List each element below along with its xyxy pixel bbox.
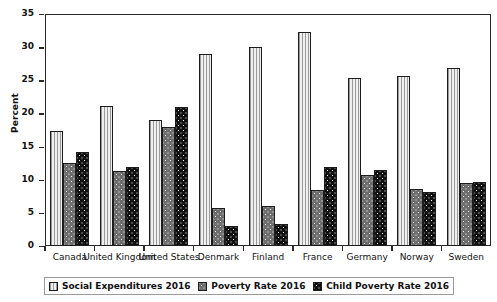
y-axis-tick-label: 5 bbox=[28, 207, 34, 218]
bar-group bbox=[194, 14, 244, 246]
bar bbox=[324, 167, 337, 246]
y-axis-tick-label: 35 bbox=[21, 8, 34, 19]
bar bbox=[175, 107, 188, 246]
y-axis-tick-mark bbox=[39, 80, 44, 81]
x-axis-tick-mark bbox=[391, 246, 392, 251]
bar-group bbox=[45, 14, 95, 246]
y-axis-tick-label: 25 bbox=[21, 74, 34, 85]
bar bbox=[249, 47, 262, 246]
y-axis-tick-label: 10 bbox=[21, 174, 34, 185]
bar bbox=[311, 190, 324, 246]
x-axis-tick-mark bbox=[243, 246, 244, 251]
y-axis-tick-mark bbox=[39, 147, 44, 148]
bar bbox=[410, 189, 423, 246]
bar bbox=[275, 224, 288, 246]
bar bbox=[100, 106, 113, 246]
y-axis-tick-mark bbox=[39, 180, 44, 181]
legend-item-poverty-rate: Poverty Rate 2016 bbox=[198, 281, 305, 291]
bar bbox=[212, 208, 225, 246]
x-axis-tick-mark bbox=[292, 246, 293, 251]
bar-group bbox=[342, 14, 392, 246]
x-axis-category: Sweden bbox=[442, 246, 492, 278]
x-axis-tick-mark bbox=[342, 246, 343, 251]
bar bbox=[149, 120, 162, 246]
bar bbox=[262, 206, 275, 246]
bar-group bbox=[243, 14, 293, 246]
x-axis-tick-mark bbox=[441, 246, 442, 251]
bar bbox=[162, 127, 175, 246]
bar bbox=[298, 32, 311, 246]
legend-swatch-icon bbox=[198, 282, 207, 291]
y-axis-tick-mark bbox=[39, 246, 44, 247]
bar bbox=[447, 68, 460, 246]
legend-item-child-poverty-rate: Child Poverty Rate 2016 bbox=[313, 281, 449, 291]
bar bbox=[225, 226, 238, 246]
bar bbox=[397, 76, 410, 246]
bar bbox=[63, 163, 76, 246]
y-axis-tick-label: 30 bbox=[21, 41, 34, 52]
y-axis-tick-label: 15 bbox=[21, 141, 34, 152]
bar bbox=[361, 175, 374, 246]
y-axis-tick-mark bbox=[39, 113, 44, 114]
x-axis-tick-mark bbox=[44, 246, 45, 251]
y-axis-tick-mark bbox=[39, 213, 44, 214]
x-axis-tick-label: Sweden bbox=[428, 252, 497, 264]
y-axis-title: Percent bbox=[10, 78, 20, 148]
bar-group bbox=[442, 14, 492, 246]
bar-group bbox=[293, 14, 343, 246]
bar bbox=[50, 131, 63, 246]
legend-swatch-icon bbox=[313, 282, 322, 291]
x-axis-tick-mark bbox=[193, 246, 194, 251]
bar-group bbox=[95, 14, 145, 246]
bar bbox=[460, 183, 473, 246]
bar-group bbox=[392, 14, 442, 246]
legend-swatch-icon bbox=[49, 282, 58, 291]
y-axis-tick-label: 20 bbox=[21, 107, 34, 118]
bar bbox=[423, 192, 436, 246]
bar bbox=[113, 171, 126, 246]
x-axis-labels: CanadaUnited KingdomUnited StatesDenmark… bbox=[45, 246, 491, 278]
bar bbox=[473, 182, 486, 246]
y-axis-tick-mark bbox=[39, 47, 44, 48]
legend-item-social-expenditures: Social Expenditures 2016 bbox=[49, 281, 191, 291]
bar-chart: Percent 05101520253035 CanadaUnited King… bbox=[0, 0, 497, 302]
bar bbox=[126, 167, 139, 246]
bar bbox=[374, 170, 387, 246]
bar-group bbox=[144, 14, 194, 246]
legend-label: Poverty Rate 2016 bbox=[211, 281, 305, 291]
bar-groups bbox=[45, 14, 491, 246]
y-axis-tick-mark bbox=[39, 14, 44, 15]
y-axis-tick-label: 0 bbox=[28, 240, 34, 251]
legend-label: Social Expenditures 2016 bbox=[62, 281, 191, 291]
legend-label: Child Poverty Rate 2016 bbox=[326, 281, 449, 291]
bar bbox=[199, 54, 212, 246]
x-axis-tick-mark bbox=[94, 246, 95, 251]
chart-legend: Social Expenditures 2016 Poverty Rate 20… bbox=[44, 277, 454, 295]
bar bbox=[348, 78, 361, 246]
x-axis-tick-mark bbox=[143, 246, 144, 251]
bar bbox=[76, 152, 89, 246]
